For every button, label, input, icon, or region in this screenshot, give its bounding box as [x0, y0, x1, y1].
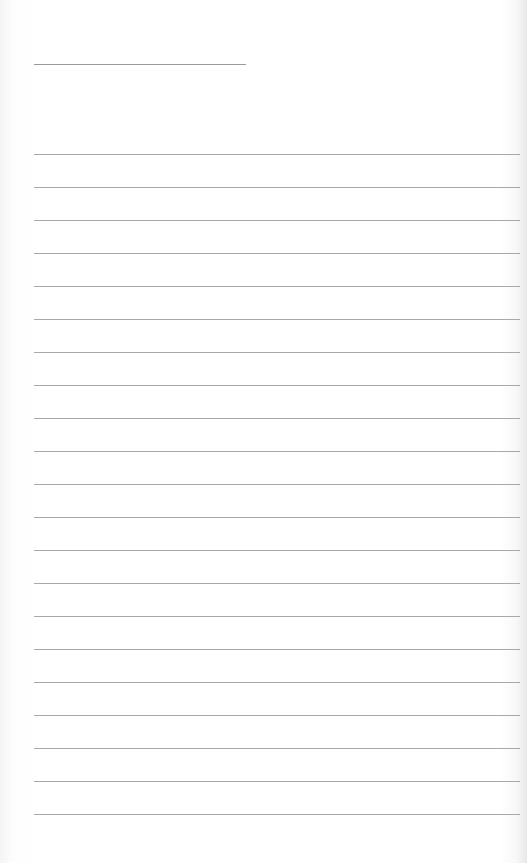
ruled-line: [34, 451, 520, 452]
ruled-line: [34, 484, 520, 485]
ruled-line: [34, 682, 520, 683]
lined-paper-sheet: [0, 0, 527, 863]
ruled-line: [34, 517, 520, 518]
ruled-line: [34, 220, 520, 221]
name-date-line: [34, 64, 246, 65]
ruled-line: [34, 616, 520, 617]
ruled-line: [34, 781, 520, 782]
ruled-line: [34, 748, 520, 749]
ruled-line: [34, 319, 520, 320]
ruled-line: [34, 286, 520, 287]
ruled-line: [34, 550, 520, 551]
ruled-line: [34, 649, 520, 650]
ruled-line: [34, 583, 520, 584]
ruled-line: [34, 418, 520, 419]
ruled-line: [34, 253, 520, 254]
ruled-line: [34, 715, 520, 716]
ruled-line: [34, 814, 520, 815]
ruled-line: [34, 352, 520, 353]
ruled-line: [34, 385, 520, 386]
ruled-line: [34, 187, 520, 188]
ruled-line: [34, 154, 520, 155]
